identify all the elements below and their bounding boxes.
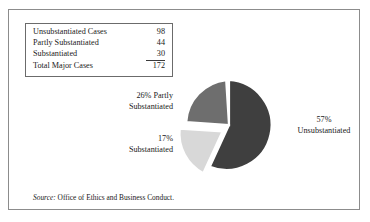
table-row-total: Total Major Cases 172 <box>33 60 165 71</box>
figure-frame: Unsubstantiated Cases 98 Partly Substant… <box>8 9 360 210</box>
table-row: Substantiated 30 <box>33 49 165 60</box>
table-cell-label: Total Major Cases <box>33 60 146 71</box>
pie-label-partly-line1: 26% Partly <box>95 91 173 102</box>
pie-label-partly-substantiated: 26% Partly Substantiated <box>95 91 173 113</box>
table-row: Unsubstantiated Cases 98 <box>33 27 165 38</box>
table-cell-value: 30 <box>146 49 165 60</box>
pie-chart-svg <box>177 66 287 181</box>
table-cell-value: 98 <box>146 27 165 38</box>
pie-label-unsubstantiated-line1: 57% <box>281 115 367 126</box>
table-cell-value: 172 <box>146 60 165 71</box>
pie-slice-partly-substantiated <box>186 80 229 125</box>
table-cell-label: Partly Substantiated <box>33 38 146 49</box>
pie-label-partly-line2: Substantiated <box>95 102 173 113</box>
pie-label-substantiated: 17% Substantiated <box>89 134 173 156</box>
table-row: Partly Substantiated 44 <box>33 38 165 49</box>
pie-label-substantiated-line1: 17% <box>89 134 173 145</box>
pie-chart <box>177 66 287 181</box>
table-cell-label: Substantiated <box>33 49 146 60</box>
pie-label-substantiated-line2: Substantiated <box>89 145 173 156</box>
table-cell-label: Unsubstantiated Cases <box>33 27 146 38</box>
case-summary-table: Unsubstantiated Cases 98 Partly Substant… <box>25 23 173 77</box>
source-note: Source: Office of Ethics and Business Co… <box>33 194 174 203</box>
source-text: Office of Ethics and Business Conduct. <box>56 193 174 202</box>
table-cell-value: 44 <box>146 38 165 49</box>
source-label: Source: <box>33 193 56 202</box>
table: Unsubstantiated Cases 98 Partly Substant… <box>33 27 165 72</box>
pie-label-unsubstantiated: 57% Unsubstantiated <box>281 115 367 137</box>
pie-label-unsubstantiated-line2: Unsubstantiated <box>281 126 367 137</box>
